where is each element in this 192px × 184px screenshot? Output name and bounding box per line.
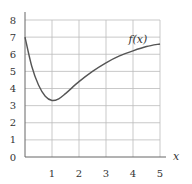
x-tick-label: 2 — [76, 168, 82, 179]
y-tick-label: 5 — [10, 66, 16, 77]
x-tick-labels: 12345 — [49, 168, 163, 179]
x-tick-label: 4 — [130, 168, 136, 179]
y-tick-label: 1 — [10, 134, 16, 145]
function-plot: 012345678 12345 f(x) x — [0, 0, 192, 184]
x-tick-label: 5 — [157, 168, 163, 179]
x-tick-label: 1 — [49, 168, 55, 179]
x-axis-label: x — [173, 150, 180, 163]
y-tick-label: 4 — [10, 83, 16, 94]
function-curve — [25, 37, 160, 100]
y-tick-label: 2 — [10, 117, 16, 128]
y-tick-label: 8 — [10, 15, 16, 26]
y-tick-labels: 012345678 — [10, 15, 16, 163]
curve-label: f(x) — [127, 33, 147, 46]
y-tick-label: 3 — [10, 100, 16, 111]
y-tick-label: 0 — [10, 152, 16, 163]
y-tick-label: 7 — [10, 32, 16, 43]
x-tick-label: 3 — [103, 168, 109, 179]
y-tick-label: 6 — [10, 49, 16, 60]
